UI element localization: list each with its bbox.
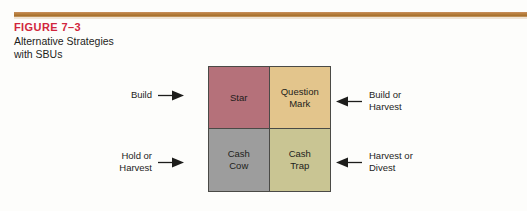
- arrow-left-icon: [336, 96, 362, 107]
- matrix-cell-cash-trap-label: Cash Trap: [289, 148, 311, 172]
- matrix-cell-cash-cow: Cash Cow: [209, 129, 270, 191]
- matrix-cell-question-mark: Question Mark: [270, 67, 331, 129]
- figure-number: FIGURE 7–3: [14, 20, 184, 34]
- arrow-right-icon: [158, 157, 184, 168]
- figure-caption: FIGURE 7–3 Alternative Strategies with S…: [14, 20, 184, 61]
- callout-hold-or-harvest: Hold or Harvest: [98, 150, 184, 174]
- callout-build-label: Build: [131, 89, 152, 101]
- figure-title-line-2: with SBUs: [14, 48, 62, 60]
- callout-harvest-or-divest: Harvest or Divest: [336, 150, 446, 174]
- callout-build-or-harvest-label: Build or Harvest: [369, 89, 402, 113]
- callout-harvest-or-divest-label: Harvest or Divest: [369, 150, 413, 174]
- arrow-left-icon: [336, 157, 362, 168]
- matrix-cell-cash-cow-label: Cash Cow: [228, 148, 250, 172]
- callout-build: Build: [108, 89, 184, 101]
- callout-hold-or-harvest-label: Hold or Harvest: [119, 150, 152, 174]
- strategy-matrix: Star Question Mark Cash Cow Cash Trap: [208, 66, 331, 192]
- header-rule-shadow: [14, 17, 527, 19]
- figure-title-line-1: Alternative Strategies: [14, 35, 114, 47]
- matrix-cell-star: Star: [209, 67, 270, 129]
- matrix-cell-star-label: Star: [230, 92, 247, 104]
- figure-title: Alternative Strategies with SBUs: [14, 35, 184, 61]
- arrow-right-icon: [158, 90, 184, 101]
- matrix-cell-question-mark-label: Question Mark: [281, 86, 319, 110]
- callout-build-or-harvest: Build or Harvest: [336, 89, 446, 113]
- matrix-cell-cash-trap: Cash Trap: [270, 129, 331, 191]
